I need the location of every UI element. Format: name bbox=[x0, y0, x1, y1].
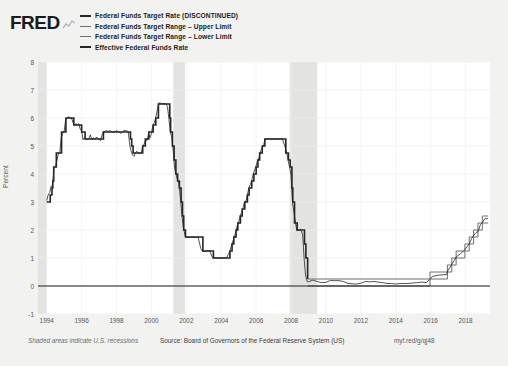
y-axis-tick-label: 7 bbox=[0, 87, 34, 94]
short-url-link[interactable]: myf.red/g/qj48 bbox=[394, 337, 435, 344]
legend-item: Federal Funds Target Range – Upper Limit bbox=[80, 21, 238, 31]
series-line bbox=[47, 103, 488, 284]
legend-swatch-lower-limit bbox=[80, 36, 91, 37]
y-axis-tick-label: 3 bbox=[0, 199, 34, 206]
chart-header: FRED Federal Funds Target Rate (DISCONTI… bbox=[0, 0, 508, 56]
mini-line-chart-icon bbox=[63, 20, 75, 30]
plot-area bbox=[38, 62, 490, 314]
chart-legend: Federal Funds Target Rate (DISCONTINUED)… bbox=[80, 11, 238, 53]
source-note: Source: Board of Governors of the Federa… bbox=[160, 337, 344, 344]
legend-label: Effective Federal Funds Rate bbox=[95, 44, 188, 51]
legend-label: Federal Funds Target Range – Upper Limit bbox=[95, 23, 232, 30]
y-axis-tick-label: 2 bbox=[0, 227, 34, 234]
fred-logo: FRED bbox=[10, 12, 60, 34]
y-axis-tick-label: 4 bbox=[0, 171, 34, 178]
legend-item: Federal Funds Target Rate (DISCONTINUED) bbox=[80, 11, 238, 21]
y-axis-tick-label: 1 bbox=[0, 255, 34, 262]
legend-swatch-target-rate bbox=[80, 15, 91, 17]
x-axis-tick-label: 2018 bbox=[446, 317, 486, 324]
series-line bbox=[308, 216, 488, 279]
data-series bbox=[47, 103, 489, 286]
y-axis-tick-label: 8 bbox=[0, 59, 34, 66]
recession-note: Shaded areas indicate U.S. recessions bbox=[28, 337, 138, 344]
fred-chart-figure: FRED Federal Funds Target Rate (DISCONTI… bbox=[0, 0, 508, 366]
chart-canvas bbox=[38, 62, 490, 314]
legend-swatch-effective-rate bbox=[80, 46, 91, 48]
chart-footer: Shaded areas indicate U.S. recessions So… bbox=[0, 334, 508, 354]
recession-bands bbox=[38, 62, 317, 314]
y-axis-tick-label: 0 bbox=[0, 283, 34, 290]
y-axis-tick-label: 5 bbox=[0, 143, 34, 150]
legend-swatch-upper-limit bbox=[80, 26, 91, 27]
recession-band bbox=[290, 62, 318, 314]
legend-label: Federal Funds Target Range – Lower Limit bbox=[95, 33, 232, 40]
legend-label: Federal Funds Target Rate (DISCONTINUED) bbox=[95, 12, 238, 19]
recession-band bbox=[38, 62, 47, 314]
series-line bbox=[308, 223, 488, 286]
legend-item: Effective Federal Funds Rate bbox=[80, 42, 238, 52]
legend-item: Federal Funds Target Range – Lower Limit bbox=[80, 32, 238, 42]
y-axis-tick-label: 6 bbox=[0, 115, 34, 122]
gridlines bbox=[38, 62, 490, 314]
